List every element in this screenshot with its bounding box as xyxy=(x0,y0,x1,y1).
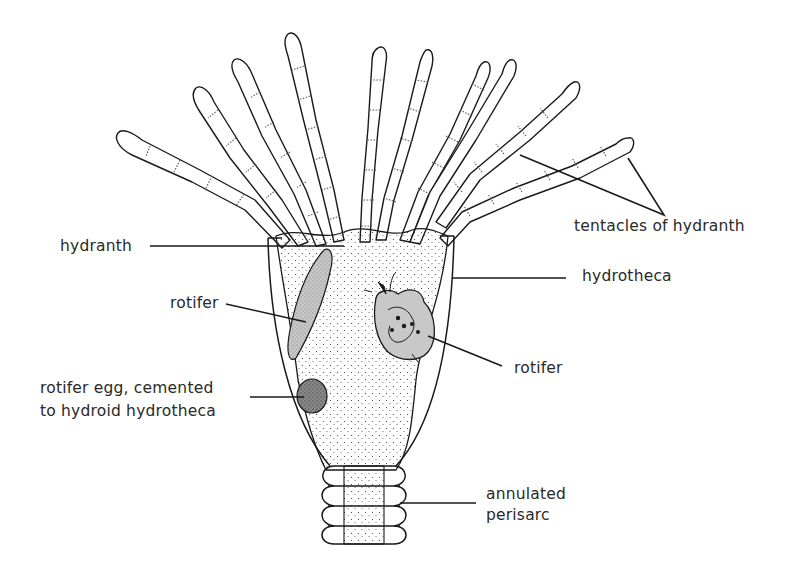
label-perisarc-line1: annulated xyxy=(486,484,566,505)
label-rotifer-right: rotifer xyxy=(514,358,563,379)
label-hydrotheca: hydrotheca xyxy=(582,266,672,287)
label-perisarc-line2: perisarc xyxy=(486,505,550,526)
annulated-perisarc xyxy=(322,466,406,544)
tentacles xyxy=(117,33,634,248)
label-tentacles: tentacles of hydranth xyxy=(574,216,745,237)
tentacle-4 xyxy=(285,33,344,242)
label-rotifer-egg-line1: rotifer egg, cemented xyxy=(40,378,213,399)
leader-rotifer-right xyxy=(428,336,502,366)
label-rotifer-egg-line2: to hydroid hydrotheca xyxy=(40,401,216,422)
label-hydranth: hydranth xyxy=(60,236,132,257)
hydroid-diagram xyxy=(0,0,804,574)
label-rotifer-left: rotifer xyxy=(170,293,219,314)
